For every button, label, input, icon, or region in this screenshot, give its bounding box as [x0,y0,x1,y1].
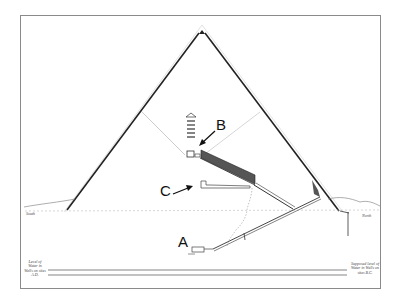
descending-passage [213,197,320,249]
casing-outline [64,25,343,212]
entrance-masonry [312,180,320,197]
relieving-chambers [186,113,200,157]
well-shaft [227,188,252,246]
label-A: A [178,234,188,249]
capstone [199,30,205,34]
water-note-left: Level of Water in Wells on sites A.D. [24,260,46,278]
ground-label-north: North [362,214,371,218]
water-note-right: Supposed level of Water in Wells on site… [350,262,380,275]
pyramid-south-face [67,33,199,210]
south-air-shaft [142,112,185,155]
arrow-B [199,131,215,146]
label-B: B [216,117,226,132]
subterranean-chamber [188,247,213,254]
pyramid-cross-section [0,0,402,304]
ground-label-south: South [26,212,35,216]
arrow-C [173,185,193,194]
ground-line [25,210,380,211]
label-C: C [160,183,171,198]
ascending-passage [254,185,293,209]
north-terrain [328,198,380,206]
south-terrain [24,199,75,207]
middle-chamber [201,181,250,188]
grand-gallery [201,150,255,184]
